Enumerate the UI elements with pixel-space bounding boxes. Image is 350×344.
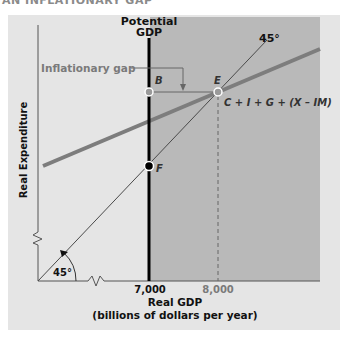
point-f (145, 162, 154, 171)
y-axis-title: Real Expenditure (18, 101, 29, 198)
line-45-label: 45° (259, 32, 280, 45)
ae-line-label: C + I + G + (X – IM) (224, 97, 332, 108)
point-e-label: E (214, 75, 221, 86)
potential-gdp-label-2: GDP (136, 26, 162, 39)
angle-45-label: 45° (53, 267, 72, 278)
x-tick-7000: 7,000 (134, 284, 166, 295)
inflationary-gap-label: Inflationary gap (41, 62, 136, 74)
point-f-label: F (156, 163, 163, 174)
point-e (214, 88, 222, 96)
chart-svg: Potential GDP Inflationary gap B E F C +… (0, 0, 350, 344)
x-tick-8000: 8,000 (202, 284, 234, 295)
x-axis-title: Real GDP (148, 296, 203, 308)
point-b (145, 88, 153, 96)
shaded-region (150, 17, 320, 281)
point-b-label: B (155, 75, 163, 86)
x-axis-units: (billions of dollars per year) (92, 309, 257, 321)
